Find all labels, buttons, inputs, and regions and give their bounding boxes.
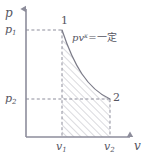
equation-exponent: κ <box>84 32 88 39</box>
x-tick-label-v1: v1 <box>56 141 67 152</box>
curve-equation-label: pvκ=一定 <box>72 33 117 43</box>
state-point-label-2: 2 <box>113 92 120 103</box>
y-tick-p2-base: p <box>5 92 12 105</box>
y-tick-p1-base: p <box>5 23 12 36</box>
x-axis-label: v <box>134 140 141 152</box>
x-tick-v2-sub: 2 <box>110 145 114 154</box>
y-tick-label-p2: p2 <box>5 93 17 104</box>
y-tick-p1-sub: 1 <box>12 28 16 37</box>
y-axis-label: p <box>5 7 13 19</box>
x-tick-v1-sub: 1 <box>62 145 66 154</box>
pv-diagram-canvas <box>0 0 144 163</box>
pv-diagram-figure: p v p1 p2 v1 v2 1 2 pvκ=一定 <box>0 0 144 163</box>
hatched-work-area <box>62 30 110 137</box>
equation-base: pv <box>72 32 84 43</box>
y-tick-p2-sub: 2 <box>12 97 16 106</box>
y-tick-label-p1: p1 <box>5 24 17 35</box>
equation-operator: = <box>88 32 96 43</box>
equation-value: 一定 <box>97 32 117 43</box>
x-tick-label-v2: v2 <box>104 141 115 152</box>
state-point-label-1: 1 <box>61 15 68 26</box>
